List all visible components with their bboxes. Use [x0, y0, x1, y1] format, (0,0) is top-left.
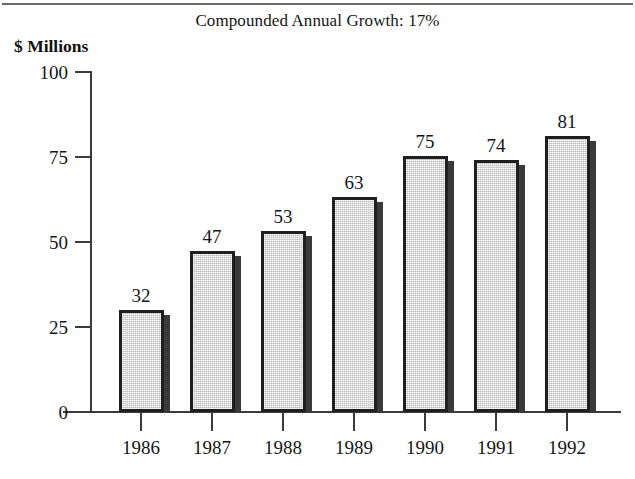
x-tick-1987 [211, 413, 213, 431]
y-tick-label-wrap-0: 0 [0, 403, 68, 422]
x-axis-label-1990: 1990 [385, 437, 465, 459]
y-tick-label-wrap-75: 75 [0, 148, 68, 167]
x-axis-label-1988: 1988 [243, 437, 323, 459]
x-axis-label-1989: 1989 [314, 437, 394, 459]
bar-1989[interactable] [332, 197, 377, 412]
y-tick-label-wrap-25: 25 [0, 318, 68, 337]
bar-1991[interactable] [474, 160, 519, 412]
x-tick-1991 [495, 413, 497, 431]
y-tick-75 [75, 156, 91, 158]
y-tick-0 [75, 411, 91, 413]
bar-value-1991: 74 [451, 135, 541, 156]
x-axis-label-1991: 1991 [456, 437, 536, 459]
y-tick-label-75: 75 [16, 148, 68, 167]
bar-1988[interactable] [261, 231, 306, 412]
y-axis-title: $ Millions [14, 36, 88, 57]
x-axis-label-1987: 1987 [172, 437, 252, 459]
figure-bar-chart: Compounded Annual Growth: 17% $ Millions… [0, 0, 635, 479]
bar-1992[interactable] [545, 136, 590, 412]
x-axis-label-1986: 1986 [101, 437, 181, 459]
bar-value-1988: 53 [238, 206, 328, 227]
bar-value-1989: 63 [309, 172, 399, 193]
bar-value-1992: 81 [522, 111, 612, 132]
x-tick-1988 [282, 413, 284, 431]
bar-1990[interactable] [403, 156, 448, 412]
x-tick-1989 [353, 413, 355, 431]
y-tick-label-100: 100 [16, 63, 68, 82]
chart-title: Compounded Annual Growth: 17% [0, 11, 635, 31]
y-tick-label-wrap-50: 50 [0, 233, 68, 252]
y-tick-label-wrap-100: 100 [0, 63, 68, 82]
bar-1986[interactable] [119, 310, 164, 412]
y-tick-50 [75, 241, 91, 243]
y-tick-label-0: 0 [16, 403, 68, 422]
y-tick-25 [75, 326, 91, 328]
x-axis-label-1992: 1992 [527, 437, 607, 459]
y-tick-label-25: 25 [16, 318, 68, 337]
bar-1987[interactable] [190, 251, 235, 412]
y-tick-label-50: 50 [16, 233, 68, 252]
x-tick-1992 [566, 413, 568, 431]
page-top-rule [2, 3, 633, 5]
bar-value-1986: 32 [96, 285, 186, 306]
x-tick-1990 [424, 413, 426, 431]
x-tick-1986 [140, 413, 142, 431]
bar-value-1987: 47 [167, 226, 257, 247]
caption-remnant [0, 470, 635, 479]
y-tick-100 [75, 71, 91, 73]
